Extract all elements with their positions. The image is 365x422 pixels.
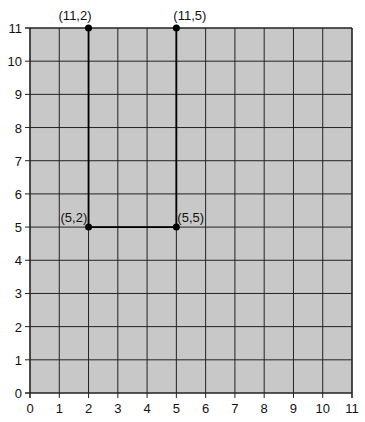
y-tick-label: 6 — [15, 187, 22, 202]
x-tick-label: 3 — [114, 401, 121, 416]
x-tick-label: 2 — [85, 401, 92, 416]
y-tick-label: 0 — [15, 386, 22, 401]
x-tick-label: 9 — [290, 401, 297, 416]
data-point — [85, 25, 92, 32]
x-tick-label: 6 — [202, 401, 209, 416]
y-tick-label: 1 — [15, 353, 22, 368]
y-tick-label: 3 — [15, 286, 22, 301]
y-tick-label: 4 — [15, 253, 22, 268]
y-tick-label: 5 — [15, 220, 22, 235]
x-tick-label: 8 — [261, 401, 268, 416]
point-label: (11,2) — [59, 8, 92, 23]
x-tick-label: 0 — [26, 401, 33, 416]
y-tick-label: 7 — [15, 154, 22, 169]
y-tick-label: 8 — [15, 121, 22, 136]
coordinate-grid-chart: 0123456789101101234567891011 (11,2)(5,2)… — [0, 0, 365, 422]
y-tick-label: 11 — [9, 21, 23, 36]
y-tick-label: 2 — [15, 320, 22, 335]
x-tick-label: 7 — [231, 401, 238, 416]
point-label: (11,5) — [173, 8, 206, 23]
x-tick-label: 1 — [56, 401, 63, 416]
y-tick-label: 9 — [15, 87, 22, 102]
data-point — [173, 25, 180, 32]
y-tick-label: 10 — [8, 54, 22, 69]
point-label: (5,5) — [177, 210, 204, 225]
x-tick-label: 5 — [173, 401, 180, 416]
x-tick-label: 4 — [143, 401, 150, 416]
point-label: (5,2) — [61, 210, 88, 225]
x-tick-label: 11 — [345, 401, 359, 416]
x-tick-label: 10 — [315, 401, 329, 416]
